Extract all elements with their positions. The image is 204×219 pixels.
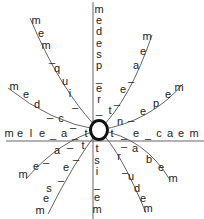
- diagram-letter: l: [30, 128, 32, 139]
- diagram-letter: e: [23, 89, 29, 100]
- diagram-letter: m: [31, 15, 40, 26]
- diagram-letter: u: [62, 76, 68, 87]
- diagram-letter: a: [132, 143, 138, 154]
- diagram-letter: t: [108, 105, 111, 116]
- diagram-letter: e: [165, 89, 171, 100]
- diagram-letter: e: [17, 128, 23, 139]
- diagram-letter: n: [117, 116, 123, 127]
- diagram-letter: p: [96, 60, 102, 71]
- diagram-letter: c: [156, 128, 162, 139]
- diagram-letter: _: [72, 98, 78, 109]
- radial-word-diagram: medesp_er_mea_e_tmepe_nt_e_caem_abemr_ud…: [0, 0, 204, 219]
- diagram-letter: m: [189, 128, 198, 139]
- diagram-letter: e: [178, 128, 184, 139]
- diagram-letter: i: [69, 88, 71, 99]
- upper-left-shallow-curve: [8, 88, 99, 130]
- diagram-letter: e: [140, 46, 146, 57]
- diagram-letter: m: [4, 128, 13, 139]
- diagram-letter: _: [96, 105, 102, 116]
- diagram-letter: e: [43, 193, 49, 204]
- diagram-letter: a: [167, 128, 173, 139]
- diagram-letter: m: [41, 40, 50, 51]
- diagram-letter: b: [146, 154, 152, 165]
- diagram-letter: t: [95, 143, 98, 154]
- diagram-letter: _: [73, 150, 79, 161]
- diagram-letter: e: [133, 128, 139, 139]
- diagram-letter: e: [38, 28, 44, 39]
- diagram-letter: m: [92, 204, 101, 215]
- diagram-letter: a: [54, 145, 60, 156]
- diagram-letter: t: [81, 140, 84, 151]
- diagram-letter: _: [43, 153, 49, 164]
- diagram-letter: _: [145, 129, 151, 140]
- diagram-letter: _: [121, 137, 127, 148]
- diagram-letter: r: [117, 151, 121, 162]
- diagram-letter: q: [54, 63, 60, 74]
- diagram-letter: m: [143, 203, 152, 214]
- diagram-letter: _: [94, 179, 100, 190]
- diagram-letter: m: [9, 81, 18, 92]
- diagram-letter: _: [72, 129, 78, 140]
- diagram-letter: _: [47, 108, 53, 119]
- diagram-letter: _: [50, 129, 56, 140]
- diagram-letter: a: [61, 128, 67, 139]
- diagram-letter: e: [39, 128, 45, 139]
- diagram-letter: e: [33, 161, 39, 172]
- diagram-letter: m: [18, 169, 27, 180]
- diagram-letter: e: [158, 162, 164, 173]
- diagram-letter: e: [120, 84, 126, 95]
- diagram-letter: _: [128, 72, 134, 83]
- diagram-letter: u: [128, 171, 134, 182]
- diagram-letter: d: [34, 99, 40, 110]
- diagram-letter: _: [58, 171, 64, 182]
- diagram-letter: m: [168, 173, 177, 184]
- diagram-letter: e: [140, 106, 146, 117]
- diagram-letter: d: [96, 26, 102, 37]
- diagram-letter: m: [142, 31, 151, 42]
- diagram-letter: _: [128, 111, 134, 122]
- diagram-letter: t: [110, 128, 113, 139]
- diagram-letter: t: [84, 128, 87, 139]
- diagram-letter: p: [153, 98, 159, 109]
- diagram-letter: _: [114, 95, 120, 106]
- diagram-letter: c: [58, 113, 64, 124]
- diagram-letter: _: [70, 118, 76, 129]
- diagram-letter: m: [35, 205, 44, 216]
- center-circle: [89, 119, 109, 141]
- diagram-letter: i: [96, 166, 98, 177]
- diagram-letter: e: [94, 192, 100, 203]
- diagram-letter: a: [133, 60, 139, 71]
- diagram-letter: m: [174, 82, 183, 93]
